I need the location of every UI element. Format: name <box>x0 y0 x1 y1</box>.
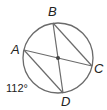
circle-diagram: B A C D 112° <box>0 0 107 110</box>
label-d: D <box>61 94 70 109</box>
label-c: C <box>94 61 104 76</box>
label-a: A <box>10 42 20 57</box>
center-point <box>56 56 60 60</box>
label-b: B <box>48 4 57 19</box>
arc-measure-label: 112° <box>6 82 28 94</box>
